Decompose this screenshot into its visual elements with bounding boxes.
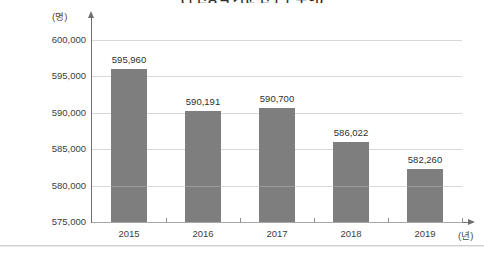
bar-2018 [333, 142, 369, 222]
x-axis-category-2017: 2017 [241, 228, 313, 239]
y-axis-tick-label: 600,000 [14, 34, 86, 45]
x-axis-category-2015: 2015 [93, 228, 165, 239]
y-axis-tick-label: 590,000 [14, 107, 86, 118]
bar-value-label-2016: 590,191 [167, 96, 239, 107]
bar-value-label-2017: 590,700 [241, 93, 313, 104]
bar-2017 [259, 108, 295, 222]
bar-gridline-seam [259, 186, 295, 187]
x-axis-tick [166, 218, 167, 223]
x-axis-tick [240, 218, 241, 223]
plot-area [92, 40, 462, 222]
bar-value-label-2015: 595,960 [93, 54, 165, 65]
bar-value-label-2018: 586,022 [315, 127, 387, 138]
y-axis-tick-label: 595,000 [14, 70, 86, 81]
footer-divider-secondary [0, 246, 484, 247]
gridline [92, 222, 462, 223]
x-axis-category-2019: 2019 [389, 228, 461, 239]
bar-gridline-seam [333, 186, 369, 187]
chart-figure: (주민등록 기준 인구수 추이) (명) (년) 600,000595,0005… [0, 0, 484, 253]
gridline [92, 76, 462, 77]
bar-2019 [407, 169, 443, 222]
bar-gridline-seam [407, 186, 443, 187]
bar-gridline-seam [111, 186, 147, 187]
x-axis-category-2018: 2018 [315, 228, 387, 239]
gridline [92, 40, 462, 41]
bar-value-label-2019: 582,260 [389, 154, 461, 165]
x-axis-tick [462, 218, 463, 223]
y-axis-tick-label: 585,000 [14, 143, 86, 154]
bar-2015 [111, 69, 147, 222]
x-axis-tick [314, 218, 315, 223]
x-axis-tick [388, 218, 389, 223]
y-axis-tick-label: 580,000 [14, 180, 86, 191]
bar-gridline-seam [185, 186, 221, 187]
y-axis-tick-label: 575,000 [14, 216, 86, 227]
bar-2016 [185, 111, 221, 222]
x-axis-category-2016: 2016 [167, 228, 239, 239]
